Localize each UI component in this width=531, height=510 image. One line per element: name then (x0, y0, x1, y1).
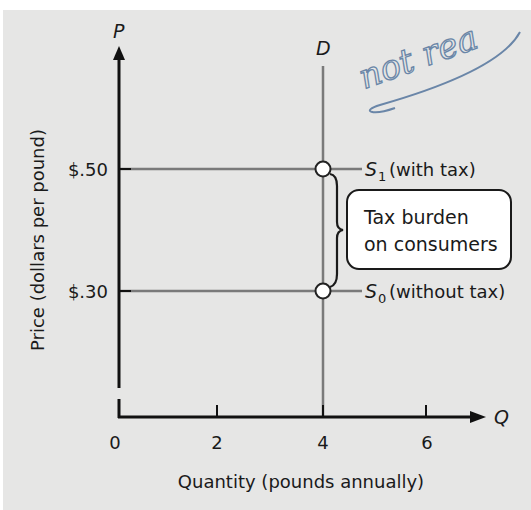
x-tick-label-6: 6 (421, 432, 432, 453)
x-tick-label-4: 4 (317, 432, 328, 453)
equilibrium-point-s0 (316, 284, 331, 299)
s0-subscript: 0 (378, 291, 386, 306)
callout-line2: on consumers (364, 233, 498, 255)
chart-svg: not rea Tax burden on consumers P D S 1 … (0, 0, 531, 510)
p-axis-label: P (113, 20, 125, 42)
brace-icon (330, 174, 343, 287)
x-tick-label-0: 0 (109, 432, 120, 453)
q-axis-label: Q (494, 406, 509, 428)
callout-box (347, 190, 511, 269)
d-curve-label: D (316, 37, 331, 59)
s1-description: (with tax) (389, 159, 476, 180)
x-axis-arrow-icon (470, 411, 486, 423)
y-axis-arrow-icon (113, 46, 125, 60)
y-axis-title: Price (dollars per pound) (27, 129, 48, 351)
s0-label: S (365, 280, 377, 302)
s1-subscript: 1 (378, 169, 386, 184)
equilibrium-point-s1 (316, 162, 331, 177)
handwritten-text: not rea (353, 17, 483, 97)
y-tick-label-50: $.50 (68, 159, 108, 180)
s1-label: S (365, 158, 377, 180)
s0-description: (without tax) (389, 281, 505, 302)
y-tick-label-30: $.30 (68, 281, 108, 302)
handwritten-note: not rea (353, 17, 520, 112)
x-axis-title: Quantity (pounds annually) (178, 471, 424, 492)
callout-line1: Tax burden (363, 206, 469, 228)
x-tick-label-2: 2 (211, 432, 222, 453)
